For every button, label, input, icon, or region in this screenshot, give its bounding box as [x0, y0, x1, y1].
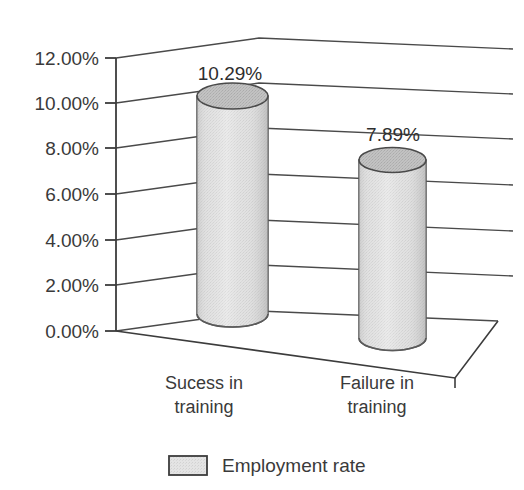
y-tick-label: 12.00%: [35, 48, 100, 69]
y-tick-label: 0.00%: [45, 321, 99, 342]
category-label-line: training: [174, 397, 233, 417]
chart-legend[interactable]: Employment rate: [169, 455, 366, 476]
bar-top-ellipse: [197, 83, 268, 109]
category-label-line: training: [347, 397, 406, 417]
y-tick-label: 8.00%: [45, 138, 99, 159]
y-axis: [105, 58, 116, 331]
bar-top-ellipse: [359, 148, 426, 173]
x-axis-category-labels: Sucess in training Failure in training: [165, 373, 414, 417]
bar-cylinder-failure-in-training[interactable]: [359, 148, 426, 351]
legend-label-employment-rate: Employment rate: [222, 455, 366, 476]
y-tick-label: 6.00%: [45, 184, 99, 205]
gridlines: [116, 38, 513, 331]
chart-container: 12.00% 10.00% 8.00% 6.00% 4.00% 2.00% 0.…: [0, 0, 524, 490]
y-tick-label: 4.00%: [45, 230, 99, 251]
y-axis-tick-labels: 12.00% 10.00% 8.00% 6.00% 4.00% 2.00% 0.…: [35, 48, 100, 342]
legend-swatch-employment-rate: [169, 456, 207, 475]
y-tick-label: 10.00%: [35, 93, 100, 114]
category-label-line: Failure in: [340, 373, 414, 393]
category-label-line: Sucess in: [165, 373, 243, 393]
bar-cylinder-sucess-in-training[interactable]: [197, 83, 268, 327]
cylinder-bar-chart-3d: 12.00% 10.00% 8.00% 6.00% 4.00% 2.00% 0.…: [0, 0, 524, 490]
y-tick-label: 2.00%: [45, 275, 99, 296]
bar-value-label: 7.89%: [366, 124, 420, 145]
bar-value-label: 10.29%: [198, 63, 263, 84]
